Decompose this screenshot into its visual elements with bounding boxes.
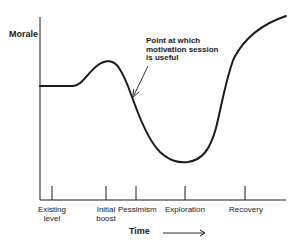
annotation-line-3: is useful bbox=[146, 54, 218, 63]
tick-label-pessimism: Pessimism bbox=[118, 205, 156, 214]
annotation-arrow-line bbox=[134, 66, 148, 95]
tick-label-exploration: Exploration bbox=[163, 205, 207, 214]
x-axis-title: Time bbox=[129, 226, 150, 236]
tick-label-recovery: Recovery bbox=[226, 205, 266, 214]
tick-label-existing-level: Existing level bbox=[34, 205, 70, 223]
annotation-text: Point at which motivation session is use… bbox=[146, 37, 218, 63]
y-axis-label: Morale bbox=[9, 29, 38, 39]
